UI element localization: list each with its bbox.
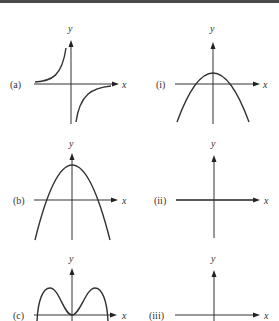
x-axis-arrow-icon: [253, 82, 260, 87]
x-axis-label: x: [262, 79, 268, 90]
x-axis-arrow-icon: [112, 82, 119, 87]
graph-label: (a): [10, 79, 21, 91]
y-axis-arrow-icon: [70, 153, 75, 160]
graph-c: (c) x y: [13, 253, 127, 321]
y-axis-arrow-icon: [212, 270, 217, 277]
curve-left-branch: [35, 48, 66, 82]
graph-ii: (ii) x y: [154, 138, 269, 238]
y-axis-label: y: [209, 23, 215, 34]
graph-label: (iii): [149, 310, 164, 321]
graph-b: (b) x y: [13, 138, 127, 240]
x-axis-arrow-icon: [253, 198, 260, 203]
y-axis-label: y: [210, 253, 216, 264]
graph-label: (i): [156, 79, 165, 91]
graph-matching-figure: (a) x y (i) x y (b) x y (ii) x y: [0, 0, 279, 321]
y-axis-arrow-icon: [211, 42, 216, 49]
x-axis-label: x: [121, 195, 127, 206]
graph-a: (a) x y: [10, 23, 127, 124]
graph-iii: (iii) x y: [149, 253, 269, 321]
x-axis-label: x: [121, 310, 127, 321]
y-axis-label: y: [67, 23, 73, 34]
graph-label: (ii): [154, 195, 166, 207]
x-axis-arrow-icon: [111, 198, 118, 203]
y-axis-label: y: [210, 138, 216, 149]
x-axis-label: x: [121, 79, 127, 90]
y-axis-arrow-icon: [69, 40, 74, 47]
y-axis-label: y: [68, 253, 74, 264]
graph-i: (i) x y: [156, 23, 268, 124]
graph-label: (c): [13, 310, 24, 321]
curve-right-branch: [76, 86, 111, 122]
x-axis-label: x: [263, 195, 269, 206]
x-axis-arrow-icon: [110, 313, 117, 318]
y-axis-arrow-icon: [212, 155, 217, 162]
x-axis-label: x: [263, 310, 269, 321]
y-axis-arrow-icon: [70, 268, 75, 275]
x-axis-arrow-icon: [253, 313, 260, 318]
y-axis-label: y: [68, 138, 74, 149]
graph-label: (b): [13, 195, 25, 207]
